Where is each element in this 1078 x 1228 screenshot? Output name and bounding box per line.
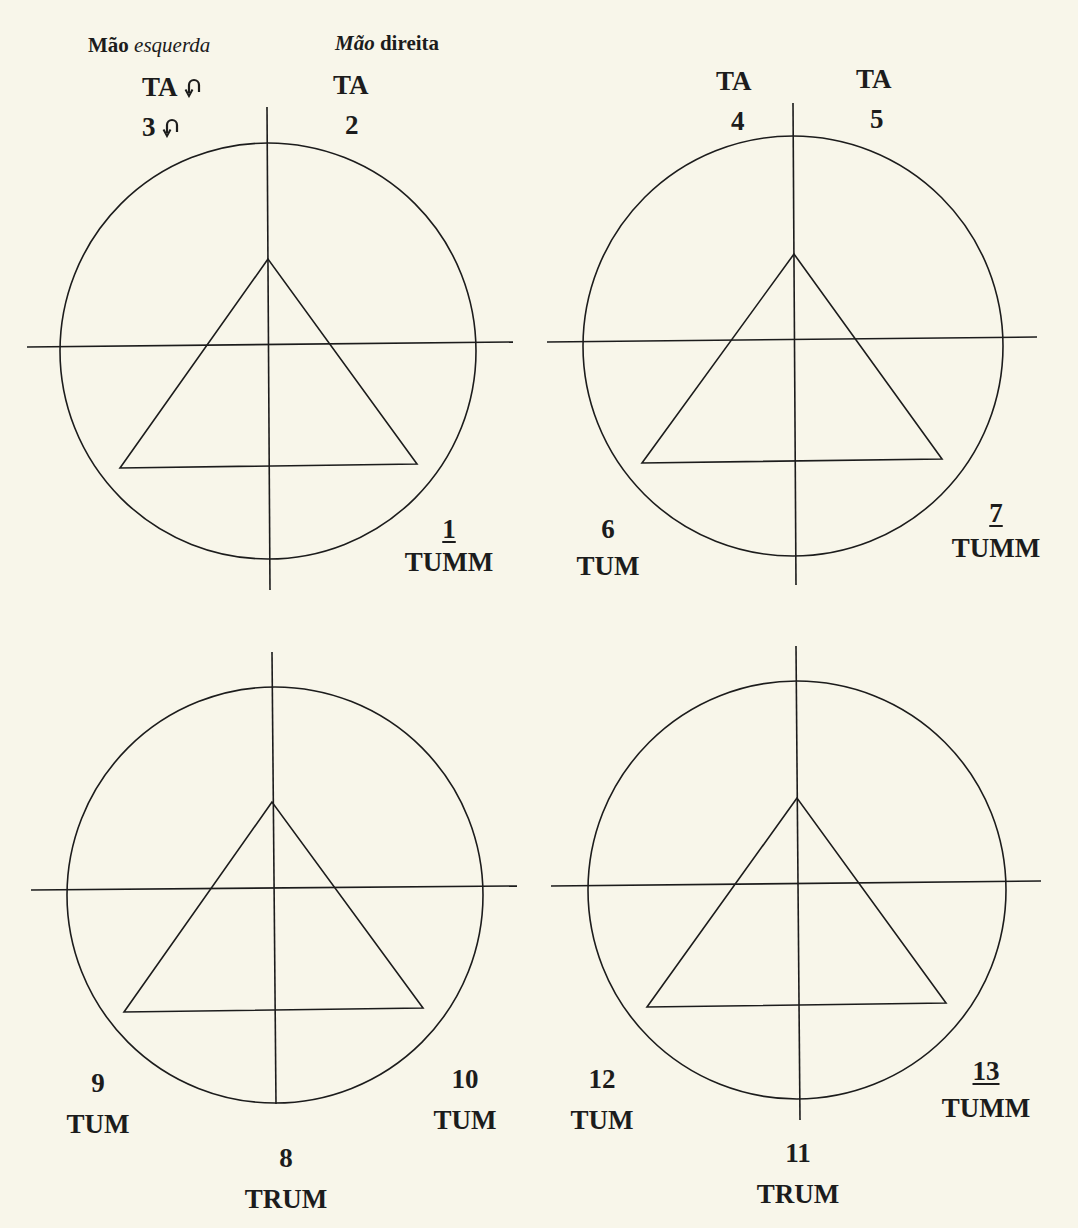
diagram-bottom-left (31, 652, 517, 1104)
d2-word-tumm: TUMM (945, 535, 1047, 562)
d4-bottom-right: 13 TUMM (935, 1058, 1037, 1122)
d2-word-tum: TUM (568, 553, 648, 580)
d1-num-right: 2 (345, 112, 359, 139)
d3-word-tum: TUM (60, 1111, 136, 1138)
diagram-bottom-right (551, 646, 1041, 1120)
d1-ta-right: TA (333, 72, 369, 99)
d2-ta-left: TA (716, 68, 752, 95)
d1-number-1: 1 (442, 516, 456, 543)
d2-ta-right: TA (856, 66, 892, 93)
d4-bottom-center: 11 TRUM (748, 1140, 848, 1208)
d3-word-trum: TRUM (236, 1186, 336, 1213)
d1-num-left: 3 (142, 114, 182, 141)
triangle (647, 798, 946, 1007)
d2-num-right: 5 (870, 106, 884, 133)
d1-word-tumm: TUMM (398, 549, 500, 576)
d2-bottom-left: 6 TUM (568, 516, 648, 580)
diagram-canvas (0, 0, 1078, 1228)
d4-bottom-left: 12 TUM (564, 1066, 640, 1134)
d4-word-tumm: TUMM (935, 1095, 1037, 1122)
d3-bottom-center: 8 TRUM (236, 1145, 336, 1213)
vertical-axis (793, 103, 796, 585)
d4-number-13: 13 (973, 1058, 1000, 1085)
d3-number-8: 8 (236, 1145, 336, 1172)
horizontal-axis (551, 881, 1041, 886)
d1-ta-left: TA (142, 74, 204, 101)
d2-num-left: 4 (731, 108, 745, 135)
right-hand-heading: Mão direita (335, 33, 439, 54)
d1-bottom-right: 1 TUMM (398, 516, 500, 576)
vertical-axis (272, 652, 276, 1104)
d3-bottom-left: 9 TUM (60, 1070, 136, 1138)
left-hand-word2: esquerda (134, 33, 210, 57)
right-hand-word2: direita (380, 31, 439, 55)
d3-number-10: 10 (427, 1066, 503, 1093)
d4-number-11: 11 (748, 1140, 848, 1167)
curved-arrow-icon (162, 116, 182, 138)
d4-word-trum: TRUM (748, 1181, 848, 1208)
triangle (642, 254, 942, 463)
d2-number-7: 7 (989, 500, 1003, 527)
d4-word-tum: TUM (564, 1107, 640, 1134)
d3-bottom-right: 10 TUM (427, 1066, 503, 1134)
left-hand-heading: Mão esquerda (88, 35, 210, 56)
vertical-axis (267, 107, 270, 590)
curved-arrow-icon (184, 76, 204, 98)
d3-word-tum: TUM (427, 1107, 503, 1134)
right-hand-word1: Mão (335, 31, 375, 55)
d2-bottom-right: 7 TUMM (945, 500, 1047, 562)
horizontal-axis (27, 342, 513, 347)
d2-number-6: 6 (568, 516, 648, 543)
horizontal-axis (547, 337, 1037, 342)
left-hand-word1: Mão (88, 33, 129, 57)
d4-number-12: 12 (564, 1066, 640, 1093)
d1-ta-left-text: TA (142, 72, 178, 102)
d3-number-9: 9 (60, 1070, 136, 1097)
d1-num-left-text: 3 (142, 112, 156, 142)
